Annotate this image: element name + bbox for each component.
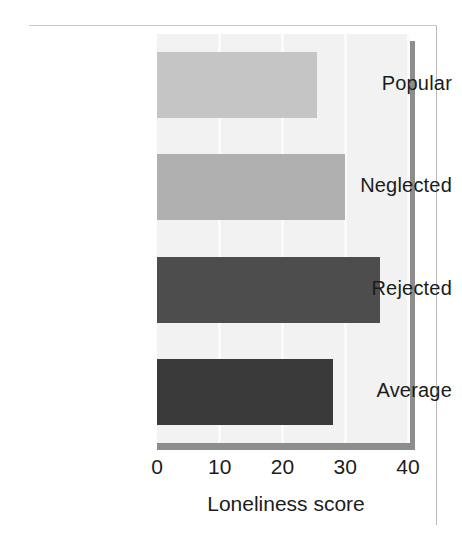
bar [157,52,317,118]
x-tick-40: 40 [396,455,419,479]
category-label-popular: Popular [315,72,462,95]
plot-shadow-bottom [157,443,415,450]
category-label-average: Average [315,379,462,402]
x-axis-title: Loneliness score [157,492,415,516]
x-tick-0: 0 [151,455,163,479]
bar-chart: PopularNeglectedRejectedAverage 01020304… [0,0,462,545]
bar [157,359,333,425]
x-tick-10: 10 [208,455,231,479]
x-tick-20: 20 [271,455,294,479]
category-label-neglected: Neglected [315,174,462,197]
x-tick-30: 30 [334,455,357,479]
category-label-rejected: Rejected [315,277,462,300]
